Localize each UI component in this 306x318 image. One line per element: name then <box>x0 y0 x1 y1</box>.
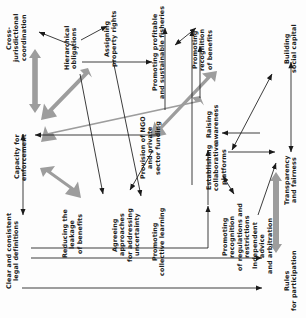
node-promoting-profitable-fisheries[interactable]: Promoting profitable and sustainable fis… <box>152 4 167 100</box>
node-provision-of-ngo-funding[interactable]: Provision of NGO and private sector fund… <box>140 112 162 184</box>
node-assigning-property-rights[interactable]: Assigning property rights <box>104 8 119 70</box>
node-clear-and-consistent-legal-definitions[interactable]: Clear and consistent legal definitions <box>6 212 21 290</box>
node-agreeing-approaches-uncertainty[interactable]: Agreeing approaches for addressing uncer… <box>112 196 142 274</box>
node-promoting-collective-learning[interactable]: Promoting collective learning <box>152 206 167 278</box>
node-promoting-recognition-of-regulations[interactable]: Promoting recognition of regulations and… <box>222 196 252 278</box>
diagram-canvas: Cross-jurisdictional coordination Capaci… <box>0 0 306 318</box>
thick-arrow-capacity-leakage <box>40 166 81 198</box>
node-hierarchical-obligations[interactable]: Hierarchical obligations <box>64 18 79 78</box>
edge-property-agreeing <box>113 60 141 196</box>
node-capacity-for-enforcement[interactable]: Capacity for enforcement <box>14 128 29 186</box>
node-rules-for-participation[interactable]: Rules for participation <box>284 248 299 314</box>
node-independent-advice-and-arbitration[interactable]: Independent advice and arbitration <box>252 210 274 282</box>
node-building-social-capital[interactable]: Building social capital <box>284 18 299 80</box>
node-cross-jurisdictional-coordination[interactable]: Cross-jurisdictional coordination <box>6 4 28 72</box>
node-promoting-recognition-of-benefits[interactable]: Promoting recognition of benefits <box>192 18 214 82</box>
node-establishing-collaborative-platforms[interactable]: Establishing collaborative platforms <box>206 128 228 206</box>
node-transparency-and-fairness[interactable]: Transparency and fairness <box>284 148 299 212</box>
edge-hierarchical-leakage <box>80 74 103 194</box>
node-reducing-the-leakage-of-benefits[interactable]: Reducing the leakage of benefits <box>62 196 84 272</box>
thick-arrow-crossjuris-capacity <box>29 49 41 113</box>
edge-platforms-socialcapital <box>232 74 272 150</box>
